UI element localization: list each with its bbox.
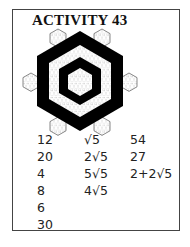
answer-value: 12 (37, 131, 53, 148)
answer-value: 27 (130, 148, 172, 165)
answers-column-3: 54 27 2+2√5 (130, 131, 172, 182)
hexagon-figure (0, 0, 190, 247)
answer-value: 5√5 (84, 165, 108, 182)
answer-value: √5 (84, 131, 108, 148)
answer-value: 54 (130, 131, 172, 148)
answer-value: 4√5 (84, 182, 108, 199)
answer-value: 6 (37, 199, 53, 216)
answer-value: 2+2√5 (130, 165, 172, 182)
answers-column-1: 12 20 4 8 6 30 (37, 131, 53, 233)
answer-value: 30 (37, 216, 53, 233)
answer-value: 4 (37, 165, 53, 182)
answer-value: 20 (37, 148, 53, 165)
answer-value: 8 (37, 182, 53, 199)
answers-column-2: √5 2√5 5√5 4√5 (84, 131, 108, 199)
answer-value: 2√5 (84, 148, 108, 165)
